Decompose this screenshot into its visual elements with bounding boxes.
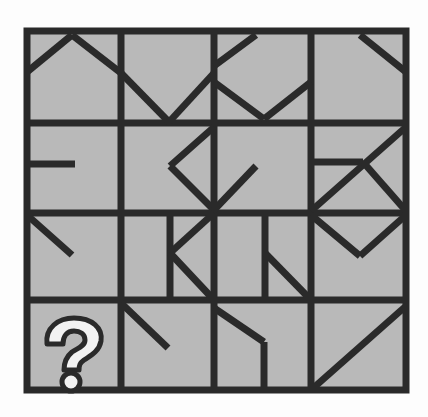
- pattern-puzzle: [0, 0, 428, 417]
- puzzle-grid: [0, 0, 428, 417]
